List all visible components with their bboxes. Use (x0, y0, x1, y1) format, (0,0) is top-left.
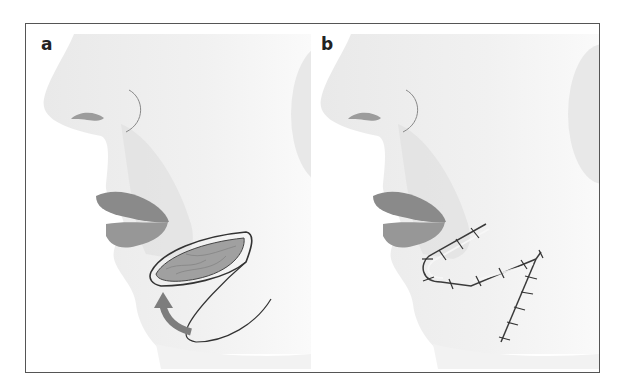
figure-frame: a (25, 23, 600, 373)
face-skin (321, 34, 599, 354)
panel-a: a (26, 24, 311, 372)
face-illustration-b (311, 24, 599, 372)
panel-b: b (311, 24, 599, 372)
face-illustration-a (26, 24, 311, 372)
panel-label-b: b (321, 34, 333, 54)
panel-label-a: a (41, 34, 52, 54)
